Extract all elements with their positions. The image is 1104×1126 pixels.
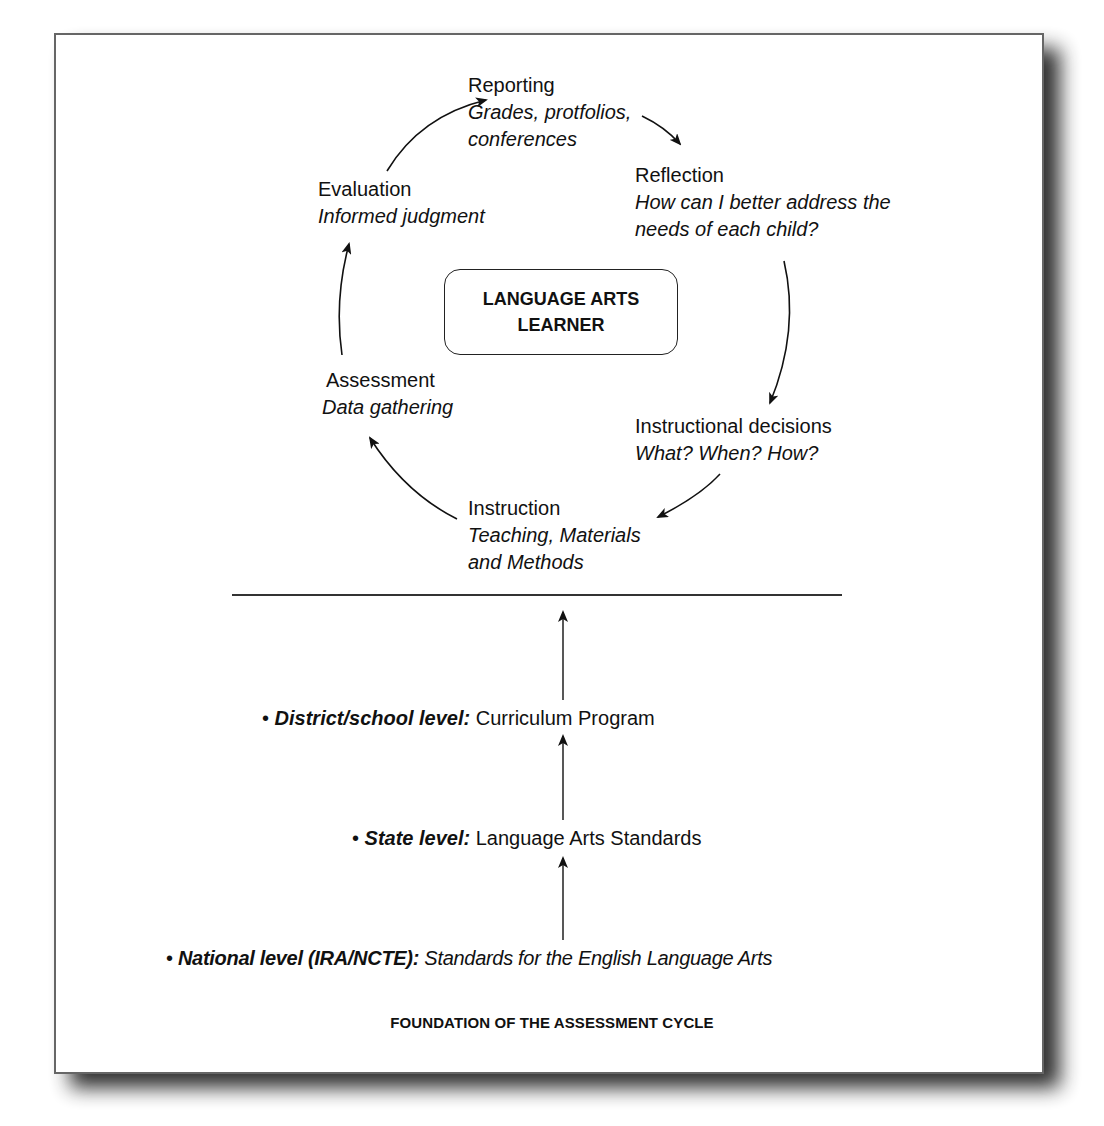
cycle-foundation-divider <box>232 594 842 596</box>
level-value: Curriculum Program <box>476 707 655 729</box>
stage-title: Evaluation <box>318 176 485 203</box>
level-key: State level: <box>365 827 471 849</box>
bullet: • <box>262 707 269 729</box>
stage-detail: Grades, protfolios, <box>468 99 631 126</box>
level-value: Standards for the English Language Arts <box>424 947 772 969</box>
level-district: • District/school level: Curriculum Prog… <box>262 707 655 730</box>
stage-title: Assessment <box>326 367 453 394</box>
arrow-reporting-to-reflection <box>642 116 680 144</box>
diagram-caption: FOUNDATION OF THE ASSESSMENT CYCLE <box>0 1014 1104 1031</box>
stage-title: Reporting <box>468 72 631 99</box>
stage-reporting: Reporting Grades, protfolios, conference… <box>468 72 631 153</box>
arrow-instruction-to-assessment <box>370 438 457 519</box>
stage-detail: and Methods <box>468 549 641 576</box>
stage-instructional-decisions: Instructional decisions What? When? How? <box>635 413 832 467</box>
stage-evaluation: Evaluation Informed judgment <box>318 176 485 230</box>
arrow-decisions-to-instruction <box>658 474 720 517</box>
stage-title: Instructional decisions <box>635 413 832 440</box>
bullet: • <box>166 947 173 969</box>
stage-detail: Data gathering <box>322 394 453 421</box>
stage-reflection: Reflection How can I better address the … <box>635 162 891 243</box>
level-value: Language Arts Standards <box>476 827 702 849</box>
stage-title: Instruction <box>468 495 641 522</box>
arrow-assessment-to-evaluation <box>339 244 349 355</box>
center-line-2: LEARNER <box>517 312 604 338</box>
stage-detail: How can I better address the <box>635 189 891 216</box>
stage-detail: Informed judgment <box>318 203 485 230</box>
stage-title: Reflection <box>635 162 891 189</box>
level-national: • National level (IRA/NCTE): Standards f… <box>166 947 772 970</box>
bullet: • <box>352 827 359 849</box>
stage-detail: conferences <box>468 126 631 153</box>
level-key: District/school level: <box>275 707 471 729</box>
level-key: National level (IRA/NCTE): <box>178 947 419 969</box>
stage-detail: Teaching, Materials <box>468 522 641 549</box>
stage-detail: What? When? How? <box>635 440 832 467</box>
center-learner-box: LANGUAGE ARTS LEARNER <box>444 269 678 355</box>
stage-instruction: Instruction Teaching, Materials and Meth… <box>468 495 641 576</box>
center-line-1: LANGUAGE ARTS <box>483 286 639 312</box>
arrow-reflection-to-decisions <box>770 261 790 403</box>
stage-detail: needs of each child? <box>635 216 891 243</box>
stage-assessment: Assessment Data gathering <box>326 367 453 421</box>
level-state: • State level: Language Arts Standards <box>352 827 701 850</box>
